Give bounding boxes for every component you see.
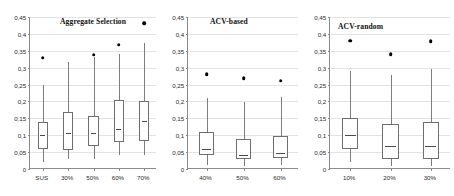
x-axis-tick-label: 50% (86, 174, 98, 181)
panel-inner: 0,450,40,350,30,250,20,150,10,05040%50%6… (160, 0, 302, 196)
gridline (188, 51, 298, 52)
data-point-marker (279, 79, 283, 83)
box (114, 100, 124, 142)
median-line (276, 153, 286, 154)
y-axis-tick-mark (186, 34, 189, 35)
data-point-marker (242, 77, 246, 81)
y-axis-tick-mark (28, 135, 31, 136)
y-axis-tick-label: 0,2 (176, 98, 184, 105)
chart-panel-1: 0,450,40,350,30,250,20,150,10,050SUS30%5… (0, 0, 160, 196)
x-axis-tick-mark (431, 168, 432, 171)
y-axis-tick-label: 0,45 (314, 14, 326, 21)
median-line (40, 135, 45, 136)
y-axis-tick-label: 0,45 (14, 14, 26, 21)
y-axis-tick-mark (28, 51, 31, 52)
y-axis-tick-label: 0,35 (314, 47, 326, 54)
plot-area (29, 17, 156, 169)
y-axis-tick-label: 0,05 (314, 149, 326, 156)
y-axis-tick-mark (186, 17, 189, 18)
median-line (202, 149, 212, 150)
y-axis-tick-label: 0,3 (318, 64, 326, 71)
x-axis-tick-mark (281, 168, 282, 171)
y-axis-tick-label: 0,3 (176, 64, 184, 71)
x-axis-tick-mark (94, 168, 95, 171)
y-axis-tick-label: 0,3 (18, 64, 26, 71)
x-axis-tick-label: 70% (137, 174, 149, 181)
data-point-marker (143, 21, 147, 25)
y-axis-tick-label: 0,15 (314, 115, 326, 122)
x-axis-tick-mark (207, 168, 208, 171)
y-axis-labels: 0,450,40,350,30,250,20,150,10,050 (0, 0, 26, 196)
x-axis-tick-mark (391, 168, 392, 171)
y-axis-tick-label: 0,15 (14, 115, 26, 122)
data-point-marker (205, 73, 209, 77)
panel-inner: 0,450,40,350,30,250,20,150,10,05010%20%3… (302, 0, 454, 196)
y-axis-tick-mark (328, 118, 331, 119)
data-point-marker (429, 40, 433, 44)
gridline (330, 68, 450, 69)
x-axis-tick-mark (119, 168, 120, 171)
y-axis-tick-mark (186, 101, 189, 102)
y-axis-tick-mark (186, 169, 189, 170)
y-axis-tick-mark (186, 51, 189, 52)
y-axis-tick-mark (328, 17, 331, 18)
chart-panel-2: 0,450,40,350,30,250,20,150,10,05040%50%6… (160, 0, 302, 196)
y-axis-tick-mark (28, 152, 31, 153)
y-axis-tick-mark (28, 169, 31, 170)
y-axis-tick-label: 0,25 (314, 81, 326, 88)
panel-inner: 0,450,40,350,30,250,20,150,10,050SUS30%5… (0, 0, 160, 196)
box (342, 118, 358, 148)
panel-title: Aggregate Selection (60, 17, 126, 26)
gridline (30, 51, 156, 52)
y-axis-tick-mark (328, 169, 331, 170)
y-axis-tick-label: 0,45 (172, 14, 184, 21)
gridline (188, 85, 298, 86)
x-axis-tick-label: 40% (199, 174, 211, 181)
box (199, 132, 214, 155)
y-axis-tick-label: 0,2 (18, 98, 26, 105)
y-axis-tick-label: 0,4 (18, 30, 26, 37)
median-line (91, 133, 96, 134)
x-axis-tick-label: 30% (424, 174, 436, 181)
x-axis-tick-label: SUS (35, 174, 48, 181)
y-axis-tick-mark (28, 85, 31, 86)
data-point-marker (92, 53, 96, 57)
median-line (66, 133, 71, 134)
x-axis-tick-label: 50% (236, 174, 248, 181)
x-axis-tick-mark (350, 168, 351, 171)
x-axis-tick-label: 10% (343, 174, 355, 181)
x-axis-tick-label: 60% (112, 174, 124, 181)
data-point-marker (348, 39, 352, 43)
gridline (188, 68, 298, 69)
x-axis-tick-mark (244, 168, 245, 171)
x-axis-tick-mark (43, 168, 44, 171)
x-axis-tick-mark (144, 168, 145, 171)
y-axis-tick-label: 0,1 (318, 132, 326, 139)
boxplot-figure: 0,450,40,350,30,250,20,150,10,050SUS30%5… (0, 0, 454, 196)
median-line (142, 121, 147, 122)
plot-area (329, 17, 450, 169)
y-axis-tick-mark (28, 118, 31, 119)
y-axis-tick-label: 0,2 (318, 98, 326, 105)
y-axis-tick-label: 0,25 (14, 81, 26, 88)
y-axis-labels: 0,450,40,350,30,250,20,150,10,050 (160, 0, 184, 196)
y-axis-labels: 0,450,40,350,30,250,20,150,10,050 (302, 0, 326, 196)
median-line (116, 129, 121, 130)
y-axis-tick-mark (28, 34, 31, 35)
gridline (330, 17, 450, 18)
median-line (239, 155, 249, 156)
y-axis-tick-label: 0 (181, 166, 184, 173)
y-axis-tick-label: 0,35 (14, 47, 26, 54)
data-point-marker (117, 43, 121, 47)
data-point-marker (41, 56, 45, 60)
y-axis-tick-mark (28, 17, 31, 18)
median-line (425, 146, 436, 147)
y-axis-tick-label: 0,05 (172, 149, 184, 156)
y-axis-tick-label: 0,15 (172, 115, 184, 122)
y-axis-tick-mark (186, 85, 189, 86)
y-axis-tick-mark (28, 68, 31, 69)
y-axis-tick-mark (328, 101, 331, 102)
y-axis-tick-label: 0,4 (176, 30, 184, 37)
y-axis-tick-mark (328, 51, 331, 52)
y-axis-tick-mark (328, 34, 331, 35)
